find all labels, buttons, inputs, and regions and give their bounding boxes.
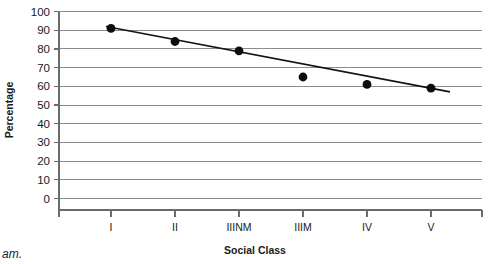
ytick-label-80: 80 — [37, 43, 50, 55]
xtick-label-6: V — [427, 221, 434, 233]
ytick-label-90: 90 — [37, 24, 50, 36]
ytick-label-20: 20 — [37, 155, 50, 167]
xtick-label-4: IIIM — [294, 221, 312, 233]
y-axis-title: Percentage — [3, 82, 15, 139]
xtick-label-5: IV — [362, 221, 372, 233]
data-point-3 — [235, 46, 244, 55]
data-point-6 — [427, 84, 436, 93]
gridlines — [59, 12, 482, 199]
ytick-label-10: 10 — [37, 174, 50, 186]
ytick-label-60: 60 — [37, 80, 50, 92]
ytick-label-0: 0 — [44, 193, 50, 205]
xtick-label-1: I — [110, 221, 113, 233]
data-point-1 — [107, 24, 116, 33]
ytick-label-50: 50 — [37, 99, 50, 111]
data-point-4 — [299, 73, 308, 82]
x-axis-ticks — [59, 210, 482, 217]
x-axis-tick-labels: I II IIINM IIIM IV V — [110, 221, 435, 233]
x-axis-title: Social Class — [224, 244, 286, 256]
chart-svg: 100 90 80 70 60 50 40 30 20 10 0 Percent… — [0, 0, 488, 264]
ytick-label-40: 40 — [37, 118, 50, 130]
y-axis-tick-labels: 100 90 80 70 60 50 40 30 20 10 0 — [31, 6, 50, 205]
ytick-label-100: 100 — [31, 6, 50, 18]
ytick-label-30: 30 — [37, 136, 50, 148]
xtick-label-2: II — [172, 221, 178, 233]
xtick-label-3: IIINM — [226, 221, 251, 233]
data-point-2 — [171, 37, 180, 46]
trend-line — [106, 27, 450, 92]
caption-fragment: am. — [2, 247, 22, 261]
ytick-label-70: 70 — [37, 62, 50, 74]
chart-figure: 100 90 80 70 60 50 40 30 20 10 0 Percent… — [0, 0, 488, 264]
data-point-5 — [363, 80, 372, 89]
